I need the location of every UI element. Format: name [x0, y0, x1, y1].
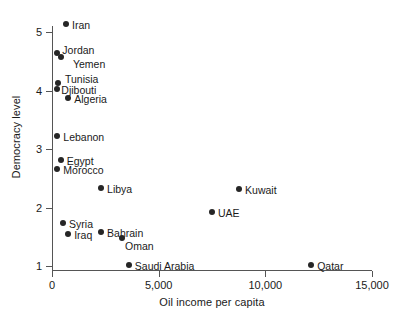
y-tick-mark	[46, 266, 52, 267]
data-point-label: Qatar	[317, 260, 343, 272]
data-point-label: Algeria	[74, 93, 107, 105]
x-tick-label: 10,000	[230, 279, 300, 292]
x-tick-label: 0	[17, 279, 87, 292]
data-point-marker	[308, 262, 314, 268]
data-point-marker	[60, 220, 66, 226]
data-point-marker	[126, 262, 132, 268]
data-point-marker	[54, 166, 60, 172]
x-tick-label: 5,000	[124, 279, 194, 292]
data-point-label: Lebanon	[63, 131, 104, 143]
data-point-marker	[54, 86, 60, 92]
data-point-label: Bahrain	[107, 227, 143, 239]
x-tick-label: 15,000	[337, 279, 403, 292]
data-point-label: Morocco	[63, 164, 103, 176]
y-tick-mark	[46, 149, 52, 150]
data-point-label: Yemen	[73, 58, 105, 70]
data-point-marker	[65, 231, 71, 237]
y-axis-label: Democracy level	[8, 2, 24, 272]
data-point-label: Jordan	[62, 44, 94, 56]
y-tick-mark	[46, 208, 52, 209]
data-point-marker	[58, 157, 64, 163]
data-point-label: Saudi Arabia	[135, 260, 195, 272]
data-point-label: Iraq	[74, 229, 92, 241]
x-tick-mark	[265, 271, 266, 277]
x-tick-mark	[52, 271, 53, 277]
data-point-marker	[65, 95, 71, 101]
data-point-marker	[54, 133, 60, 139]
x-tick-mark	[159, 271, 160, 277]
scatter-plot-figure: 12345 05,00010,00015,000 IranJordanYemen…	[0, 0, 403, 317]
data-point-label: UAE	[218, 207, 240, 219]
data-point-marker	[58, 54, 64, 60]
y-tick-mark	[46, 91, 52, 92]
y-tick-mark	[46, 32, 52, 33]
data-point-marker	[98, 185, 104, 191]
y-axis-line	[52, 26, 53, 271]
data-point-label: Iran	[72, 19, 90, 31]
data-point-marker	[63, 21, 69, 27]
data-point-marker	[209, 209, 215, 215]
data-point-marker	[98, 229, 104, 235]
data-point-label: Kuwait	[245, 184, 277, 196]
data-point-label: Libya	[107, 183, 132, 195]
data-point-marker	[236, 186, 242, 192]
x-tick-mark	[372, 271, 373, 277]
data-point-label: Oman	[125, 240, 154, 252]
x-axis-label: Oil income per capita	[52, 295, 372, 309]
